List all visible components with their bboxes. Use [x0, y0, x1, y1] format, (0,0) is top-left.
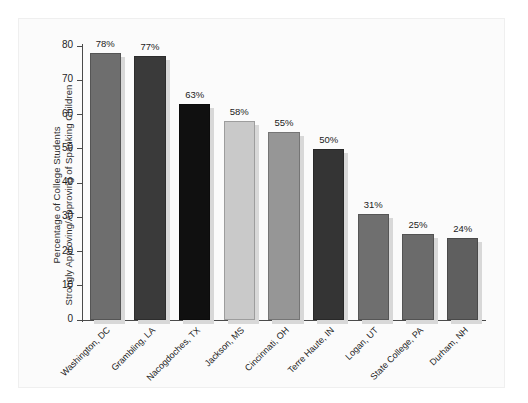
bar-fill — [402, 234, 433, 320]
y-tick-label: 20 — [47, 245, 73, 256]
bar-jackson-ms[interactable] — [224, 121, 255, 320]
bar-value-label: 77% — [140, 41, 159, 52]
bar-value-label: 55% — [274, 117, 293, 128]
bar-durham-nh[interactable] — [447, 238, 478, 320]
bar-state-college-pa[interactable] — [402, 234, 433, 320]
plot-area: 78%77%63%58%55%50%31%25%24% — [83, 46, 485, 320]
bar-nacogdoches-tx[interactable] — [179, 104, 210, 320]
y-tick-label: 10 — [47, 279, 73, 290]
bar-washington-dc[interactable] — [90, 53, 121, 320]
bar-fill — [447, 238, 478, 320]
y-tick-label: 70 — [47, 73, 73, 84]
bar-group: 77% — [134, 46, 165, 320]
bar-value-label: 24% — [453, 223, 472, 234]
y-axis-title: Percentage of College Students Strongly … — [51, 50, 75, 340]
bar-logan-ut[interactable] — [358, 214, 389, 320]
bar-grambling-la[interactable] — [134, 56, 165, 320]
bar-cincinnati-oh[interactable] — [268, 132, 299, 320]
bar-fill — [134, 56, 165, 320]
y-axis-title-line2: Strongly Approving/Approving of Spanking… — [63, 50, 75, 340]
bar-group: 31% — [358, 46, 389, 320]
bar-fill — [268, 132, 299, 320]
bar-value-label: 58% — [230, 106, 249, 117]
bar-group: 63% — [179, 46, 210, 320]
bar-value-label: 25% — [408, 219, 427, 230]
y-axis-title-line1: Percentage of College Students — [51, 50, 63, 340]
bar-value-label: 31% — [364, 199, 383, 210]
bar-group: 58% — [224, 46, 255, 320]
bar-fill — [90, 53, 121, 320]
y-tick-label: 60 — [47, 108, 73, 119]
bar-group: 25% — [402, 46, 433, 320]
bar-fill — [313, 149, 344, 320]
bar-group: 55% — [268, 46, 299, 320]
bar-value-label: 50% — [319, 134, 338, 145]
y-tick-label: 80 — [47, 39, 73, 50]
y-tick-label: 30 — [47, 210, 73, 221]
bar-group: 50% — [313, 46, 344, 320]
bar-fill — [358, 214, 389, 320]
y-tick-label: 40 — [47, 176, 73, 187]
y-tick-label: 50 — [47, 142, 73, 153]
bar-value-label: 63% — [185, 89, 204, 100]
bar-fill — [224, 121, 255, 320]
bar-chart-figure: Percentage of College Students Strongly … — [0, 0, 528, 403]
bar-value-label: 78% — [96, 38, 115, 49]
bar-group: 24% — [447, 46, 478, 320]
bar-terre-haute-in[interactable] — [313, 149, 344, 320]
bar-fill — [179, 104, 210, 320]
y-tick-label: 0 — [47, 313, 73, 324]
bar-group: 78% — [90, 46, 121, 320]
